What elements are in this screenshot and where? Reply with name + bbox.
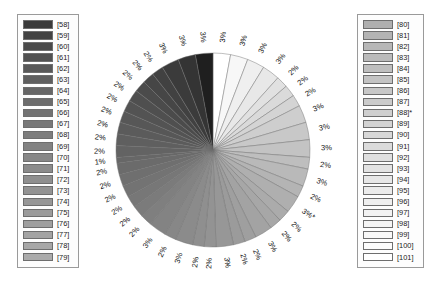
legend-left-item[interactable]: [60]	[23, 41, 73, 52]
pie-slice[interactable]	[213, 78, 286, 150]
pie-slice[interactable]	[213, 96, 299, 150]
legend-left-item[interactable]: [79]	[23, 252, 73, 263]
pie-slice[interactable]	[129, 91, 213, 150]
legend-right-item[interactable]: [96]	[363, 197, 418, 208]
legend-right-item[interactable]: [88]*	[363, 108, 418, 119]
pie-slice[interactable]	[116, 134, 213, 150]
legend-right-item[interactable]: [92]	[363, 152, 418, 163]
legend-right-item[interactable]: [91]	[363, 141, 418, 152]
legend-label: [95]	[397, 187, 409, 194]
legend-right-item[interactable]: [98]	[363, 219, 418, 230]
legend-right-item[interactable]: [80]	[363, 19, 418, 30]
legend-right-item[interactable]: [85]	[363, 74, 418, 85]
pie-slice[interactable]	[213, 150, 234, 247]
legend-left-item[interactable]: [74]	[23, 197, 73, 208]
legend-right-item[interactable]: [97]	[363, 208, 418, 219]
legend-right-item[interactable]: [94]	[363, 174, 418, 185]
pie-slice[interactable]	[213, 150, 298, 211]
legend-left-item[interactable]: [61]	[23, 52, 73, 63]
legend-label: [96]	[397, 198, 409, 205]
legend-swatch	[363, 64, 393, 73]
legend-left-item[interactable]: [69]	[23, 141, 73, 152]
pie-slice[interactable]	[213, 67, 278, 150]
pie-slice[interactable]	[213, 86, 293, 150]
pie-slice[interactable]	[117, 150, 213, 175]
legend-right-item[interactable]: [93]	[363, 163, 418, 174]
pie-slice[interactable]	[213, 150, 256, 242]
legend-left-item[interactable]: [76]	[23, 219, 73, 230]
pie-slice[interactable]	[213, 150, 308, 186]
legend-right-item[interactable]: [86]	[363, 86, 418, 97]
pie-slice[interactable]	[213, 150, 280, 228]
legend-right-item[interactable]: [81]	[363, 30, 418, 41]
legend-left-item[interactable]: [68]	[23, 130, 73, 141]
pie-slice[interactable]	[116, 146, 213, 158]
legend-right-item[interactable]: [90]	[363, 130, 418, 141]
pie-slice[interactable]	[116, 150, 213, 163]
pie-slice[interactable]	[119, 150, 213, 186]
pie-slice[interactable]	[195, 53, 213, 150]
legend-left-item[interactable]: [66]	[23, 108, 73, 119]
legend-right-item[interactable]: [87]	[363, 97, 418, 108]
pie-slice[interactable]	[178, 55, 213, 150]
legend-swatch	[23, 198, 53, 207]
legend-right-item[interactable]: [82]	[363, 41, 418, 52]
pie-slice[interactable]	[162, 59, 213, 150]
legend-right-item[interactable]: [89]	[363, 119, 418, 130]
pie-slice[interactable]	[213, 150, 303, 197]
legend-left-item[interactable]: [67]	[23, 119, 73, 130]
legend-left-item[interactable]: [77]	[23, 230, 73, 241]
legend-swatch	[23, 153, 53, 162]
legend-right-item[interactable]: [83]	[363, 52, 418, 63]
pie-slice[interactable]	[213, 106, 306, 150]
pie-slice[interactable]	[213, 53, 231, 150]
legend-left-item[interactable]: [63]	[23, 74, 73, 85]
pie-slice[interactable]	[213, 150, 288, 220]
legend-right-item[interactable]: [95]	[363, 185, 418, 196]
pie-slice[interactable]	[213, 150, 245, 245]
pie-slice[interactable]	[165, 150, 213, 239]
legend-right-item[interactable]: [100]	[363, 241, 418, 252]
pie-slice[interactable]	[213, 59, 264, 150]
pie-slice[interactable]	[123, 150, 213, 197]
legend-swatch	[363, 109, 393, 118]
pie-slice[interactable]	[134, 150, 213, 216]
pie-slice[interactable]	[213, 55, 248, 150]
legend-left-item[interactable]: [78]	[23, 241, 73, 252]
legend-left-item[interactable]: [71]	[23, 163, 73, 174]
pie-slice[interactable]	[204, 150, 216, 247]
pie-slice[interactable]	[142, 150, 213, 224]
legend-left-item[interactable]: [62]	[23, 63, 73, 74]
legend-left-item[interactable]: [75]	[23, 208, 73, 219]
pie-slice[interactable]	[176, 150, 213, 245]
pie-slice[interactable]	[192, 150, 213, 247]
legend-left-item[interactable]: [64]	[23, 86, 73, 97]
pie-slice[interactable]	[124, 101, 213, 150]
legend-right-item[interactable]: [99]	[363, 230, 418, 241]
legend-left-item[interactable]: [73]	[23, 185, 73, 196]
pie-slice[interactable]	[213, 150, 271, 237]
legend-left-item[interactable]: [59]	[23, 30, 73, 41]
legend-left-item[interactable]: [72]	[23, 174, 73, 185]
pie-slice[interactable]	[128, 150, 213, 207]
legend-left-item[interactable]: [70]	[23, 152, 73, 163]
legend-label: [88]*	[397, 109, 412, 116]
pie-slice[interactable]	[120, 111, 213, 150]
pie-slice[interactable]	[213, 122, 309, 150]
pie-slice[interactable]	[213, 140, 310, 158]
pie-slice[interactable]	[117, 122, 213, 150]
pie-slice[interactable]	[213, 150, 310, 169]
legend-label: [79]	[57, 254, 69, 261]
pie-slice[interactable]	[144, 74, 213, 150]
legend-left-item[interactable]: [65]	[23, 97, 73, 108]
legend-right-item[interactable]: [84]	[363, 63, 418, 74]
pie-percentage-label: 2%	[296, 73, 310, 87]
pie-slice[interactable]	[153, 67, 213, 150]
pie-slice[interactable]	[136, 82, 213, 150]
legend-right-item[interactable]: [101]	[363, 252, 418, 263]
legend-left-item[interactable]: [58]	[23, 19, 73, 30]
pie-slice[interactable]	[150, 150, 213, 234]
legend-swatch	[363, 164, 393, 173]
legend-label: [76]	[57, 220, 69, 227]
legend-label: [68]	[57, 131, 69, 138]
